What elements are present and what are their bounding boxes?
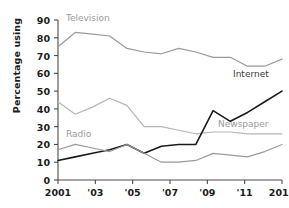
x-tick-label: '05 bbox=[125, 187, 141, 198]
x-tick-label: 2001 bbox=[45, 187, 71, 198]
x-tick-label: '03 bbox=[87, 187, 103, 198]
series-label-newspaper: Newspaper bbox=[218, 119, 269, 129]
y-tick-label: 50 bbox=[28, 86, 50, 97]
y-tick-label: 80 bbox=[28, 32, 50, 43]
series-line-television bbox=[58, 32, 282, 66]
y-tick-label: 40 bbox=[28, 103, 50, 114]
y-tick-label: 0 bbox=[28, 175, 50, 186]
x-tick-label: '11 bbox=[237, 187, 253, 198]
y-tick-label: 10 bbox=[28, 157, 50, 168]
y-tick-label: 60 bbox=[28, 68, 50, 79]
x-tick-label: 2013 bbox=[269, 187, 289, 198]
chart-container: Percentage using 0102030405060708090 200… bbox=[0, 0, 289, 208]
y-tick-label: 20 bbox=[28, 139, 50, 150]
x-tick-label: '07 bbox=[162, 187, 178, 198]
y-axis-ticks bbox=[54, 20, 58, 180]
series-label-internet: Internet bbox=[233, 69, 269, 79]
y-tick-label: 30 bbox=[28, 121, 50, 132]
x-tick-label: '09 bbox=[199, 187, 215, 198]
y-tick-label: 70 bbox=[28, 50, 50, 61]
series-label-television: Television bbox=[66, 13, 110, 23]
series-lines bbox=[58, 32, 282, 162]
series-label-radio: Radio bbox=[66, 129, 91, 139]
y-tick-label: 90 bbox=[28, 15, 50, 26]
x-axis-ticks bbox=[58, 180, 282, 184]
